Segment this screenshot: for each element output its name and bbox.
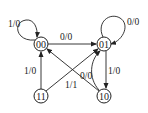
label-11-00: 1/0 xyxy=(24,66,36,76)
label-00-00: 1/0 xyxy=(8,19,20,29)
state-diagram: 00 01 11 10 1/0 0/0 0/0 1/0 1/1 0/0 1/0 xyxy=(0,0,148,113)
svg-text:00: 00 xyxy=(36,39,46,50)
label-10-00: 0/0 xyxy=(80,71,92,81)
label-01-10: 1/0 xyxy=(108,66,120,76)
label-00-01: 0/0 xyxy=(60,32,72,42)
label-01-01: 0/0 xyxy=(127,17,139,27)
state-node-11: 11 xyxy=(34,89,48,103)
svg-text:10: 10 xyxy=(99,91,109,102)
svg-text:11: 11 xyxy=(36,91,46,102)
state-node-01: 01 xyxy=(97,37,111,51)
state-node-00: 00 xyxy=(34,37,48,51)
state-node-10: 10 xyxy=(97,89,111,103)
label-11-01: 1/1 xyxy=(65,80,77,90)
edge-10-01 xyxy=(92,51,100,90)
svg-text:01: 01 xyxy=(99,39,109,50)
edge-00-00 xyxy=(18,20,38,40)
